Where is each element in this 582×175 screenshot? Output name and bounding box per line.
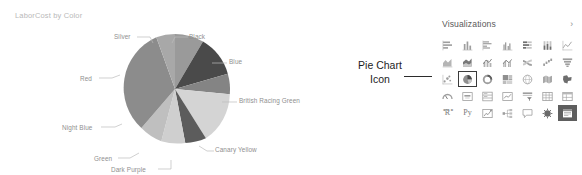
filled-map-icon[interactable] [538, 71, 557, 87]
table-icon[interactable] [538, 88, 557, 104]
key-influencers-icon[interactable] [478, 105, 497, 121]
pie-label-british-racing-green: British Racing Green [239, 97, 300, 104]
pie-label-dark-purple: Dark Purple [111, 166, 146, 173]
pie-chart-icon[interactable] [458, 71, 477, 87]
donut-chart-icon[interactable] [478, 71, 497, 87]
funnel-chart-icon[interactable] [558, 54, 577, 70]
area-chart-icon[interactable] [438, 54, 457, 70]
pie-label-canary-yellow: Canary Yellow [215, 146, 257, 153]
pie-label-green: Green [94, 155, 112, 162]
gauge-icon[interactable] [438, 88, 457, 104]
clustered-column-chart-icon[interactable] [498, 37, 517, 53]
pie-label-silver: Silver [114, 33, 131, 40]
qa-visual-icon[interactable] [518, 105, 537, 121]
chevron-right-icon[interactable]: › [570, 19, 573, 29]
visualizations-header: Visualizations › [442, 19, 575, 32]
shape-map-icon[interactable] [558, 71, 577, 87]
hundred-percent-stacked-bar-chart-icon[interactable] [518, 37, 537, 53]
annotation-line-2: Icon [345, 72, 415, 86]
ribbon-chart-icon[interactable] [518, 54, 537, 70]
pie-leader-green [118, 152, 140, 162]
slicer-icon[interactable] [518, 88, 537, 104]
hundred-percent-stacked-column-chart-icon[interactable] [538, 37, 557, 53]
stacked-area-chart-icon[interactable] [458, 54, 477, 70]
waterfall-chart-icon[interactable] [538, 54, 557, 70]
python-glyph: Py [463, 108, 471, 118]
visualizations-title: Visualizations [442, 19, 496, 29]
multi-row-card-icon[interactable] [478, 88, 497, 104]
pie-leader-canary-yellow [199, 145, 215, 153]
matrix-icon[interactable] [558, 88, 577, 104]
visualization-type-grid: R Py [438, 37, 582, 121]
paginated-report-icon[interactable] [558, 105, 577, 121]
chart-panel: LaborCost by Color Black Blue [0, 0, 332, 175]
pie-leader-silver [137, 36, 155, 44]
annotation-line-1: Pie Chart [345, 58, 415, 72]
pie-chart-svg [119, 33, 231, 145]
visualizations-pane: Visualizations › [432, 10, 582, 150]
card-icon[interactable] [458, 88, 477, 104]
pie-leader-dark-purple [158, 160, 172, 172]
python-visual-icon[interactable]: Py [458, 105, 477, 121]
line-and-clustered-column-chart-icon[interactable] [498, 54, 517, 70]
more-visuals-button[interactable]: ••• [443, 107, 454, 113]
scatter-chart-icon[interactable] [438, 71, 457, 87]
line-and-stacked-column-chart-icon[interactable] [478, 54, 497, 70]
treemap-icon[interactable] [498, 71, 517, 87]
pie-leader-night-blue [101, 123, 123, 131]
clustered-bar-chart-icon[interactable] [478, 37, 497, 53]
pie-chart[interactable] [119, 33, 231, 145]
line-chart-icon[interactable] [558, 37, 577, 53]
annotation-callout: Pie Chart Icon [345, 58, 415, 86]
map-icon[interactable] [518, 71, 537, 87]
pie-label-black: Black [189, 33, 205, 40]
stacked-bar-chart-icon[interactable] [438, 37, 457, 53]
stacked-column-chart-icon[interactable] [458, 37, 477, 53]
pie-leader-red [99, 74, 121, 82]
pie-leader-blue [212, 61, 228, 65]
pie-label-red: Red [80, 75, 92, 82]
pie-leader-black [172, 36, 190, 44]
chart-title: LaborCost by Color [15, 11, 82, 20]
pie-label-blue: Blue [229, 58, 242, 65]
pie-leader-british-racing-green [222, 100, 238, 104]
decomposition-tree-icon[interactable] [498, 105, 517, 121]
pie-label-night-blue: Night Blue [62, 124, 93, 131]
smart-narrative-icon[interactable] [538, 105, 557, 121]
kpi-icon[interactable] [498, 88, 517, 104]
